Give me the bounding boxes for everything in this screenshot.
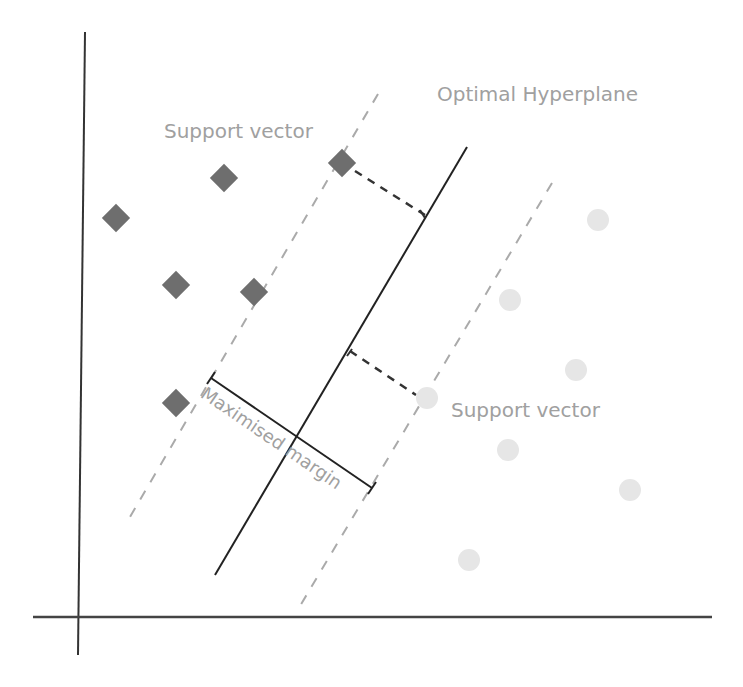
class-b-points — [416, 209, 641, 571]
circle-point — [458, 549, 480, 571]
circle-point — [499, 289, 521, 311]
y-axis — [78, 32, 85, 655]
margin-measure-line — [211, 378, 372, 488]
distance-line-bottom — [350, 351, 416, 395]
diamond-point — [162, 389, 190, 417]
circle-point-support-vector — [416, 387, 438, 409]
class-a-points — [102, 149, 356, 417]
circle-point — [619, 479, 641, 501]
diamond-point — [210, 164, 238, 192]
diamond-point — [162, 271, 190, 299]
optimal-hyperplane-label: Optimal Hyperplane — [437, 84, 638, 104]
circle-point — [587, 209, 609, 231]
margin-measure-tick-right — [368, 482, 376, 494]
optimal-hyperplane — [215, 147, 467, 575]
diamond-point — [240, 278, 268, 306]
diamond-point — [102, 204, 130, 232]
distance-line-top — [355, 171, 425, 215]
support-vector-label-bottom: Support vector — [451, 400, 600, 420]
support-vector-label-top: Support vector — [164, 121, 313, 141]
circle-point — [565, 359, 587, 381]
diamond-point-support-vector — [328, 149, 356, 177]
circle-point — [497, 439, 519, 461]
